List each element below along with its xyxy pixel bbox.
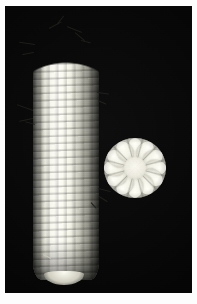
corn-cross-section — [104, 138, 166, 198]
corn-ear — [33, 30, 99, 280]
corn-ear-butt — [44, 271, 84, 285]
corn-silk-strand — [98, 100, 107, 105]
corn-ear-tip-taper — [32, 28, 100, 102]
cross-section-vignette — [104, 138, 166, 198]
photo-plate — [5, 6, 192, 293]
corn-silk-strand — [17, 104, 33, 111]
corn-silk-strand — [57, 16, 65, 25]
image-canvas — [0, 0, 197, 304]
